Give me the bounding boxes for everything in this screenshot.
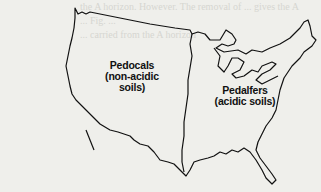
pedocals-label: Pedocals (non-acidic soils)	[92, 60, 172, 93]
region-description: (non-acidic soils)	[92, 71, 172, 93]
pedalfers-label: Pedalfers (acidic soils)	[205, 85, 285, 107]
soil-boundary-line	[182, 34, 192, 172]
region-description: (acidic soils)	[205, 96, 285, 107]
west-coast-stub	[86, 130, 94, 150]
